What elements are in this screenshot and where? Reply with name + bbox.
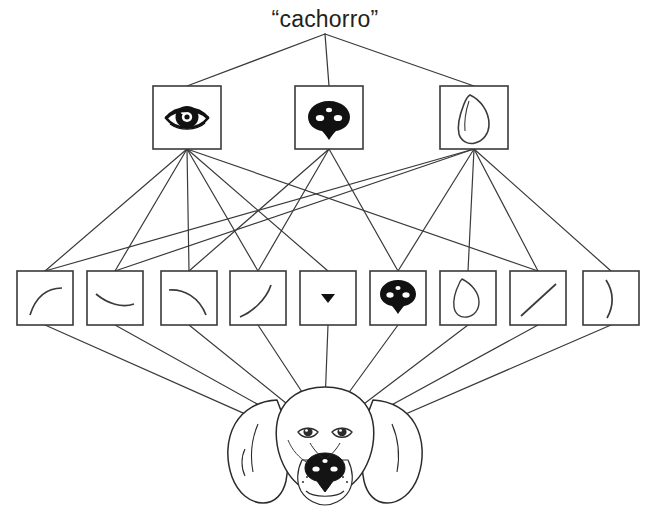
connector-part-eye-to-feat-3 (187, 149, 189, 271)
connector-feat-3-to-dog-head-image-layer (189, 325, 302, 416)
dog-head-image (228, 387, 422, 505)
connections-parts-to-features (45, 149, 611, 271)
box-feat-1[interactable] (17, 271, 73, 325)
connector-part-ear-to-feat-2 (115, 149, 474, 271)
hierarchy-diagram (0, 0, 650, 525)
connections-word-to-parts (187, 34, 474, 86)
box-feat-2[interactable] (87, 271, 143, 325)
connector-word-layer-to-part-eye (187, 34, 325, 86)
connector-part-eye-to-feat-8 (187, 149, 538, 271)
box-feat-3[interactable] (161, 271, 217, 325)
box-feat-8[interactable] (510, 271, 566, 325)
connector-part-eye-to-feat-4 (187, 149, 258, 271)
connector-part-eye-to-feat-2 (115, 149, 187, 271)
connector-part-ear-to-feat-9 (474, 149, 611, 271)
diagram-canvas: “cachorro” (0, 0, 650, 525)
connector-part-nose-to-feat-6 (329, 149, 398, 271)
connector-part-eye-to-feat-1 (45, 149, 187, 271)
box-feat-4[interactable] (230, 271, 286, 325)
box-feat-9[interactable] (583, 271, 639, 325)
connector-feat-7-to-dog-head-image-layer (348, 325, 468, 416)
connector-word-layer-to-part-nose (325, 34, 329, 86)
connector-word-layer-to-part-ear (325, 34, 474, 86)
connector-part-ear-to-feat-7 (468, 149, 474, 271)
